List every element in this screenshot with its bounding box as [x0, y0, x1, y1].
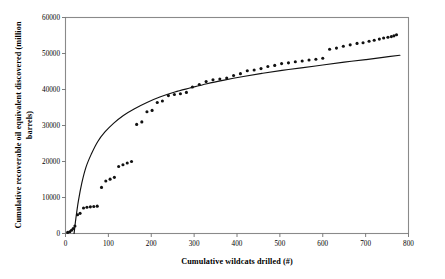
data-point [294, 60, 297, 63]
data-point [121, 163, 124, 166]
data-point [140, 120, 143, 123]
x-tick-label: 500 [274, 240, 285, 248]
y-tick-label: 20000 [42, 158, 60, 166]
data-point [246, 69, 249, 72]
data-point [280, 62, 283, 65]
data-point [378, 38, 381, 41]
data-point [89, 205, 92, 208]
data-point [307, 58, 310, 61]
y-tick-label: 40000 [42, 86, 60, 94]
data-point [130, 160, 133, 163]
data-point [314, 58, 317, 61]
data-point [109, 178, 112, 181]
data-point [191, 85, 194, 88]
data-point [205, 80, 208, 83]
data-point [335, 47, 338, 50]
data-point [96, 205, 99, 208]
data-point [373, 39, 376, 42]
x-tick-label: 600 [317, 240, 328, 248]
data-point [135, 123, 138, 126]
data-point [72, 227, 75, 230]
data-point [113, 176, 116, 179]
data-point [273, 64, 276, 67]
data-point [328, 48, 331, 51]
data-point [259, 67, 262, 70]
data-point [382, 36, 385, 39]
x-axis-title: Cumulative wildcats drilled (#) [181, 257, 293, 266]
data-point [356, 42, 359, 45]
y-tick-label: 30000 [42, 122, 60, 130]
y-tick-label: 50000 [42, 50, 60, 58]
y-tick-label: 0 [56, 230, 60, 238]
data-point [179, 92, 182, 95]
data-point [321, 57, 324, 60]
data-point [161, 99, 164, 102]
data-point [253, 69, 256, 72]
data-point [239, 72, 242, 75]
data-point [362, 41, 365, 44]
data-point [82, 206, 85, 209]
plot-frame [66, 18, 409, 234]
data-point [126, 161, 129, 164]
x-tick-label: 0 [64, 240, 68, 248]
data-point [73, 224, 76, 227]
data-point [117, 165, 120, 168]
x-tick-label: 400 [232, 240, 243, 248]
y-axis-ticks: 0100002000030000400005000060000 [42, 14, 65, 238]
data-point [151, 109, 154, 112]
data-point [198, 83, 201, 86]
y-tick-label: 10000 [42, 194, 60, 202]
data-point [349, 43, 352, 46]
data-point [156, 101, 159, 104]
x-tick-label: 100 [103, 240, 114, 248]
x-axis-ticks: 0100200300400500600700800 [64, 234, 415, 248]
x-tick-label: 300 [189, 240, 200, 248]
data-point [100, 186, 103, 189]
data-point [232, 74, 235, 77]
data-point [173, 93, 176, 96]
data-point [386, 36, 389, 39]
y-axis-title-line1: Cumulative recoverable oil equivalent di… [14, 21, 23, 228]
x-tick-label: 700 [360, 240, 371, 248]
data-point [145, 110, 148, 113]
data-point [287, 61, 290, 64]
data-point [225, 76, 228, 79]
data-point [266, 65, 269, 68]
x-tick-label: 800 [403, 240, 414, 248]
data-point [301, 60, 304, 63]
data-point [211, 78, 214, 81]
data-point [395, 33, 398, 36]
data-point [218, 78, 221, 81]
y-axis-title-line2: barrels) [25, 111, 34, 140]
data-point [167, 94, 170, 97]
data-point [79, 212, 82, 215]
scatter-plot-svg: 0100002000030000400005000060000 01002003… [0, 0, 445, 279]
data-point [342, 45, 345, 48]
data-point [185, 91, 188, 94]
chart-figure: 0100002000030000400005000060000 01002003… [0, 0, 445, 279]
scatter-points-group [66, 33, 398, 234]
data-point [104, 179, 107, 182]
data-point [368, 40, 371, 43]
data-point [85, 206, 88, 209]
fitted-curve [74, 55, 400, 233]
y-tick-label: 60000 [42, 14, 60, 22]
data-point [92, 205, 95, 208]
x-tick-label: 200 [146, 240, 157, 248]
